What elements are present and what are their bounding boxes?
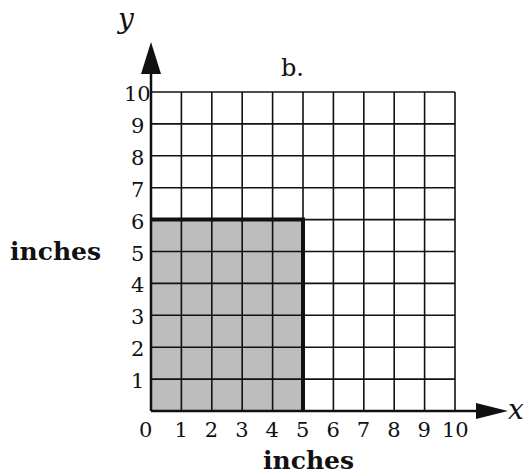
y-tick-label: 1 [131, 371, 144, 392]
x-tick-label: 8 [387, 420, 400, 441]
graph-diagram: b. y x inches inches 012345678910 123456… [0, 0, 529, 476]
x-axis-variable: x [508, 393, 524, 426]
x-tick-label: 2 [205, 420, 218, 441]
y-axis-variable: y [118, 2, 134, 35]
x-tick-label: 7 [357, 420, 370, 441]
y-tick-label: 4 [131, 275, 144, 296]
y-axis-arrow-icon [141, 42, 161, 74]
x-tick-label: 9 [418, 420, 431, 441]
y-axis-label: inches [10, 237, 101, 266]
x-axis-label: inches [263, 446, 354, 475]
y-tick-label: 10 [124, 84, 151, 105]
x-tick-label: 5 [296, 420, 309, 441]
y-tick-label: 8 [131, 148, 144, 169]
x-tick-label: 4 [266, 420, 279, 441]
x-tick-label: 1 [174, 420, 187, 441]
x-tick-label: 6 [326, 420, 339, 441]
y-tick-label: 2 [131, 339, 144, 360]
y-tick-label: 3 [131, 307, 144, 328]
x-tick-label: 10 [442, 420, 469, 441]
x-tick-label: 0 [139, 420, 152, 441]
x-tick-label: 3 [235, 420, 248, 441]
y-tick-label: 9 [131, 116, 144, 137]
x-axis-arrow-icon [476, 403, 508, 419]
y-tick-label: 7 [131, 180, 144, 201]
y-tick-label: 6 [131, 212, 144, 233]
figure-label: b. [281, 54, 304, 82]
y-tick-label: 5 [131, 244, 144, 265]
